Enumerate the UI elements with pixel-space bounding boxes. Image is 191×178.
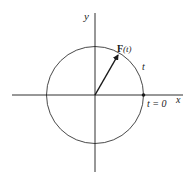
arc-parameter-label: t xyxy=(142,61,145,72)
vector-arrow xyxy=(95,55,118,95)
circle-vector-diagram: y x F(t) t t = 0 xyxy=(0,0,191,178)
y-axis-label: y xyxy=(83,10,89,22)
vector-label-arg: (t) xyxy=(123,44,132,54)
start-point-label: t = 0 xyxy=(147,98,167,109)
start-point-dot xyxy=(142,93,146,97)
vector-label: F(t) xyxy=(117,43,132,54)
x-axis-label: x xyxy=(175,94,181,105)
